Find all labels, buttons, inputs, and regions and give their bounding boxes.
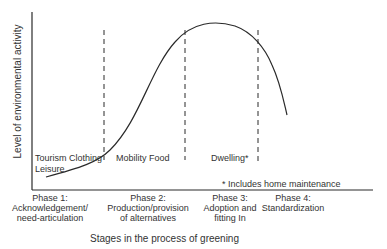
phase-3-line1: Adoption and — [196, 203, 264, 213]
phase-2-line1: Production/provision — [103, 203, 193, 213]
domain-label-mobility-food: Mobility Food — [116, 153, 170, 163]
phase-1-line2: need-articulation — [8, 213, 92, 223]
phase-4-line1: Standardization — [258, 203, 328, 213]
phase-2-line2: of alternatives — [103, 213, 193, 223]
phase-2-title: Phase 2: — [103, 193, 193, 203]
phase-3-label: Phase 3: Adoption and fitting In — [196, 193, 264, 223]
footnote: * Includes home maintenance — [222, 179, 341, 189]
phase-4-label: Phase 4: Standardization — [258, 193, 328, 213]
phase-1-line1: Acknowledgement/ — [8, 203, 92, 213]
x-axis-label: Stages in the process of greening — [90, 233, 239, 244]
domain-label-leisure: Leisure — [35, 164, 65, 174]
domain-label-dwelling: Dwelling* — [211, 153, 249, 163]
phase-1-label: Phase 1: Acknowledgement/ need-articulat… — [8, 193, 92, 223]
phase-3-title: Phase 3: — [196, 193, 264, 203]
phase-1-title: Phase 1: — [8, 193, 92, 203]
domain-label-tourism-clothing: Tourism Clothing — [35, 153, 102, 163]
phase-2-label: Phase 2: Production/provision of alterna… — [103, 193, 193, 223]
y-axis-label: Level of environmental activity — [12, 17, 23, 167]
phase-3-line2: fitting In — [196, 213, 264, 223]
phase-4-title: Phase 4: — [258, 193, 328, 203]
